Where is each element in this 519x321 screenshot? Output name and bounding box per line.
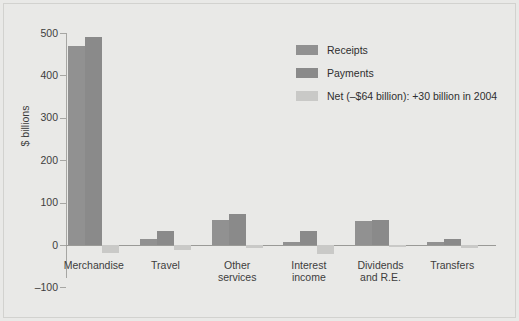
- legend-label-payments: Payments: [327, 67, 374, 79]
- y-tick-label-6: –100: [14, 282, 58, 293]
- y-tick-label-2: 300: [14, 112, 58, 123]
- legend-item-receipts: Receipts: [296, 44, 497, 56]
- y-tick-3: [60, 160, 66, 161]
- y-tick-1: [60, 75, 66, 76]
- bar-receipts-0: [68, 46, 85, 245]
- y-tick-label-4: 100: [14, 197, 58, 208]
- bar-payments-2: [229, 214, 246, 245]
- y-tick-label-wrap-2: 300: [10, 112, 58, 123]
- y-tick-2: [60, 118, 66, 119]
- bar-receipts-2: [212, 220, 229, 245]
- y-tick-5: [60, 245, 66, 246]
- bar-net-0: [102, 245, 119, 253]
- bar-receipts-1: [140, 239, 157, 245]
- y-tick-label-wrap-0: 500: [10, 28, 58, 39]
- bar-receipts-3: [283, 242, 300, 245]
- legend-label-net: Net (–$64 billion): +30 billion in 2004: [327, 90, 497, 102]
- bar-payments-0: [85, 37, 102, 245]
- y-tick-label-wrap-5: 0: [10, 240, 58, 251]
- legend-swatch-payments: [296, 68, 318, 78]
- zero-baseline: [66, 245, 496, 246]
- bar-net-5: [461, 245, 478, 248]
- y-tick-label-5: 0: [14, 240, 58, 251]
- bar-payments-4: [372, 220, 389, 245]
- x-label-5: Transfers: [402, 259, 502, 271]
- bar-net-3: [317, 245, 334, 254]
- bar-net-1: [174, 245, 191, 250]
- chart-page: $ billions 5004003002001000–100 Merchand…: [0, 0, 519, 321]
- y-tick-label-3: 200: [14, 155, 58, 166]
- y-axis-line: [66, 33, 67, 278]
- bar-net-2: [246, 245, 263, 248]
- bar-receipts-4: [355, 221, 372, 245]
- y-tick-label-wrap-3: 200: [10, 155, 58, 166]
- y-tick-6: [60, 287, 66, 288]
- y-tick-4: [60, 203, 66, 204]
- bar-net-4: [389, 245, 406, 247]
- bar-payments-1: [157, 231, 174, 245]
- bar-payments-3: [300, 231, 317, 245]
- y-tick-label-1: 400: [14, 70, 58, 81]
- legend-item-payments: Payments: [296, 67, 497, 79]
- chart-legend: Receipts Payments Net (–$64 billion): +3…: [296, 44, 497, 113]
- legend-swatch-receipts: [296, 45, 318, 55]
- legend-swatch-net: [296, 91, 318, 101]
- y-tick-label-wrap-6: –100: [10, 282, 58, 293]
- legend-item-net: Net (–$64 billion): +30 billion in 2004: [296, 90, 497, 102]
- bar-payments-5: [444, 239, 461, 245]
- bar-receipts-5: [427, 242, 444, 245]
- y-tick-label-wrap-1: 400: [10, 70, 58, 81]
- legend-label-receipts: Receipts: [327, 44, 368, 56]
- y-tick-label-0: 500: [14, 28, 58, 39]
- y-tick-0: [60, 33, 66, 34]
- y-tick-label-wrap-4: 100: [10, 197, 58, 208]
